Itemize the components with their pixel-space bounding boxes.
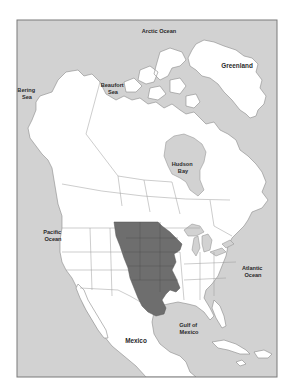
label-greenland: Greenland xyxy=(221,62,253,69)
label-beaufort-sea-line1: Beaufort xyxy=(101,82,124,88)
label-atlantic-ocean-line2: Ocean xyxy=(244,272,262,278)
label-bering-sea-line1: Bering xyxy=(17,87,35,93)
label-gulf-of-mexico: Gulf of Mexico xyxy=(179,322,199,335)
label-atlantic-ocean-line1: Atlantic xyxy=(242,265,263,271)
label-pacific-ocean: Pacific Ocean xyxy=(43,229,63,242)
label-bering-sea-line2: Sea xyxy=(22,94,33,100)
label-pacific-ocean-line1: Pacific xyxy=(43,229,61,235)
north-america-map: Arctic Ocean Greenland Bering Sea Beaufo… xyxy=(0,0,295,392)
label-beaufort-sea-line2: Sea xyxy=(108,89,119,95)
label-hudson-bay-line2: Bay xyxy=(178,168,189,174)
label-mexico: Mexico xyxy=(125,337,147,344)
label-hudson-bay-line1: Hudson xyxy=(172,161,193,167)
label-arctic-ocean: Arctic Ocean xyxy=(142,28,177,34)
label-pacific-ocean-line2: Ocean xyxy=(44,236,62,242)
label-atlantic-ocean: Atlantic Ocean xyxy=(242,265,264,278)
label-gulf-of-mexico-line1: Gulf of xyxy=(179,322,197,328)
label-gulf-of-mexico-line2: Mexico xyxy=(180,329,200,335)
